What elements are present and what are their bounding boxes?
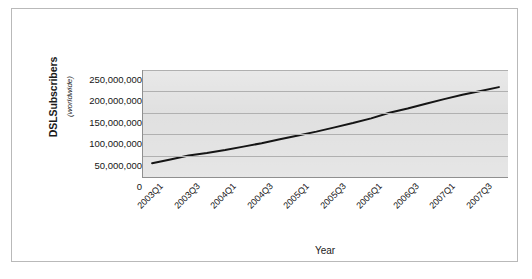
y-tick-label: 0 xyxy=(60,182,142,192)
gridline xyxy=(143,113,508,114)
gridline xyxy=(143,91,508,92)
y-tick-label: 100,000,000 xyxy=(60,139,142,149)
y-tick-label: 50,000,000 xyxy=(60,161,142,171)
x-tick-label: 2005Q3 xyxy=(318,181,348,211)
x-axis-tick-labels: 2003Q12003Q32004Q12004Q32005Q12005Q32006… xyxy=(142,181,522,231)
plot-area xyxy=(142,70,508,178)
y-axis-tick-labels: 250,000,000200,000,000150,000,000100,000… xyxy=(60,69,142,197)
data-line xyxy=(143,70,508,177)
y-tick-mark xyxy=(142,70,143,71)
x-tick-label: 2004Q1 xyxy=(208,181,238,211)
y-tick-label: 200,000,000 xyxy=(60,96,142,106)
y-tick-mark xyxy=(142,91,143,92)
x-tick-label: 2006Q3 xyxy=(391,181,421,211)
x-tick-label: 2007Q1 xyxy=(427,181,457,211)
x-tick-label: 2003Q3 xyxy=(172,181,202,211)
y-tick-mark xyxy=(142,113,143,114)
gridline xyxy=(143,156,508,157)
chart-figure: DSLSubscribers (worldwide) 250,000,00020… xyxy=(11,8,518,262)
gridline xyxy=(143,70,508,71)
y-tick-mark xyxy=(142,156,143,157)
x-tick-label: 2004Q3 xyxy=(245,181,275,211)
y-tick-mark xyxy=(142,177,143,178)
x-tick-label: 2005Q1 xyxy=(281,181,311,211)
y-tick-label: 150,000,000 xyxy=(60,118,142,128)
x-tick-label: 2007Q3 xyxy=(464,181,494,211)
gridline xyxy=(143,134,508,135)
y-tick-mark xyxy=(142,134,143,135)
y-axis-title: DSLSubscribers xyxy=(47,38,59,156)
x-axis-title: Year xyxy=(142,245,508,256)
x-tick-label: 2006Q1 xyxy=(354,181,384,211)
y-tick-label: 250,000,000 xyxy=(60,75,142,85)
